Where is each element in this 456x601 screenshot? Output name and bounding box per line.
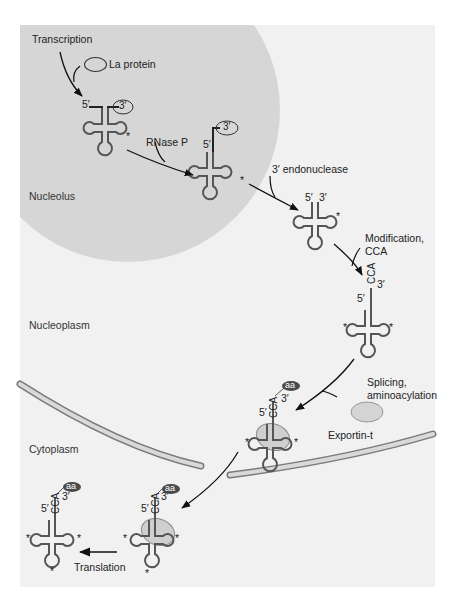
modification-label-line2: CCA — [365, 245, 387, 257]
trna-processing-diagram: Nucleolus Nucleoplasm Cytoplasm Transcri… — [0, 0, 456, 601]
cytoplasm-label: Cytoplasm — [29, 443, 79, 455]
splicing-label-line2: aminoacylation — [367, 389, 437, 401]
exportin-label: Exportin-t — [328, 429, 373, 441]
trna2-3prime: 3′ — [223, 121, 230, 133]
trna7-5prime: 5′ — [41, 502, 49, 514]
trna6-aa: aa — [165, 483, 175, 493]
trna6-5prime: 5′ — [141, 502, 149, 514]
trna4-cca: CCA — [366, 263, 378, 284]
trna5-aa: aa — [285, 380, 295, 390]
exportin-free — [351, 402, 383, 422]
trna4-5prime: 5′ — [357, 292, 365, 304]
trna6-star-left: * — [123, 532, 127, 544]
trna1-3prime: 3′ — [119, 100, 126, 112]
splicing-label-line1: Splicing, — [367, 376, 407, 388]
trna1-5prime: 5′ — [82, 98, 90, 110]
diagram-canvas — [0, 0, 456, 601]
trna1-star: * — [126, 130, 130, 142]
trna3-star: * — [336, 210, 340, 222]
nucleolus-label: Nucleolus — [29, 190, 75, 202]
trna7-cca: CCA — [50, 493, 62, 514]
trna4-star-left: * — [343, 321, 347, 333]
trna2-star: * — [240, 174, 244, 186]
modification-label-line1: Modification, — [365, 232, 424, 244]
trna3-5prime: 5′ — [305, 191, 313, 203]
nucleoplasm-label: Nucleoplasm — [29, 319, 90, 331]
trna7-3prime: 3′ — [62, 490, 70, 502]
translation-label: Translation — [74, 561, 126, 573]
endonuclease-label: 3′ endonuclease — [272, 163, 348, 175]
trna5-star-left: * — [245, 436, 249, 448]
transcription-label: Transcription — [32, 33, 92, 45]
trna5-3prime: 3′ — [281, 392, 289, 404]
trna7-star-right: * — [77, 532, 81, 544]
trna5-star-right: * — [294, 436, 298, 448]
trna7-star-left: * — [26, 532, 30, 544]
la-protein-icon — [84, 57, 107, 72]
trna5-5prime: 5′ — [259, 406, 267, 418]
trna2-5prime: 5′ — [203, 138, 211, 150]
trna4-3prime: 3′ — [377, 278, 385, 290]
trna7-star-bottom: * — [50, 565, 54, 577]
trna6-cca: CCA — [150, 493, 162, 514]
trna4-star-right: * — [389, 321, 393, 333]
la-protein-label: La protein — [109, 58, 156, 70]
trna6-star-bottom: * — [145, 567, 149, 579]
rnase-p-label: RNase P — [146, 136, 188, 148]
trna6-star-right: * — [175, 532, 179, 544]
trna3-3prime: 3′ — [319, 191, 327, 203]
trna7-aa: aa — [66, 481, 76, 491]
trna5-cca: CCA — [268, 397, 280, 418]
